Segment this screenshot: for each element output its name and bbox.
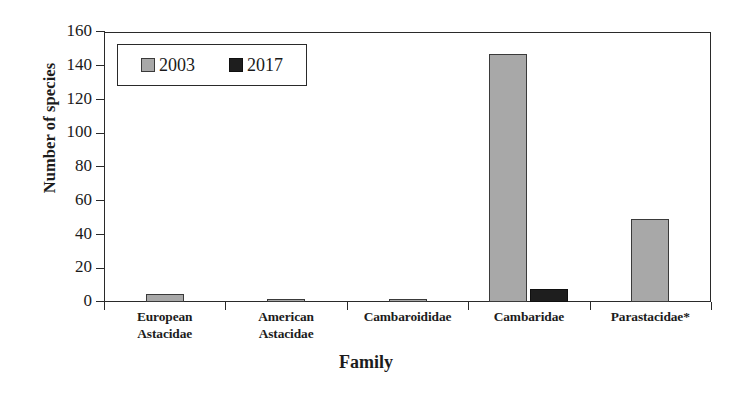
y-axis-tick-label: 120: [40, 89, 92, 109]
bar-chart-figure: Number of species 020406080100120140160 …: [0, 0, 732, 400]
chart-legend: 2003 2017: [117, 44, 307, 86]
legend-entry-2003: 2003: [141, 56, 195, 74]
legend-label-2017: 2017: [247, 56, 283, 74]
bar-2003-cambaridae: [489, 54, 527, 302]
y-axis-tick-label: 100: [40, 122, 92, 142]
bar-2003-cambaroididae: [389, 299, 427, 302]
bar-2003-americanastacidae: [267, 299, 305, 302]
category-label-line1: Parastacidae*: [611, 309, 690, 324]
category-label-line2: Astacidae: [104, 326, 225, 343]
y-axis-tick: [96, 133, 105, 134]
y-axis-tick-label: 40: [40, 224, 92, 244]
y-axis-tick-label: 140: [40, 55, 92, 75]
x-axis-tick: [711, 302, 712, 310]
y-axis-tick-label: 160: [40, 21, 92, 41]
y-axis-tick-label: 60: [40, 190, 92, 210]
y-axis-tick: [96, 166, 105, 167]
x-axis-category-label: EuropeanAstacidae: [104, 309, 225, 343]
bar-2017-cambaridae: [530, 289, 568, 303]
legend-label-2003: 2003: [159, 56, 195, 74]
legend-entry-2017: 2017: [229, 56, 283, 74]
y-axis-tick: [96, 31, 105, 32]
legend-swatch-2003-icon: [141, 58, 155, 72]
category-label-line1: European: [137, 309, 193, 324]
bar-2003-europeanastacidae: [146, 294, 184, 302]
category-label-line1: Cambaridae: [494, 309, 564, 324]
y-axis-tick-label: 80: [40, 156, 92, 176]
y-axis-tick: [96, 268, 105, 269]
y-axis-tick: [96, 65, 105, 66]
y-axis-tick-label: 0: [40, 291, 92, 311]
x-axis-category-label: Cambaroididae: [347, 309, 468, 326]
x-axis-category-label: Parastacidae*: [590, 309, 711, 326]
y-axis-tick-label: 20: [40, 257, 92, 277]
x-axis-title: Family: [0, 352, 732, 373]
category-label-line1: Cambaroididae: [364, 309, 452, 324]
legend-swatch-2017-icon: [229, 58, 243, 72]
x-axis-category-label: AmericanAstacidae: [225, 309, 346, 343]
x-axis-category-label: Cambaridae: [468, 309, 589, 326]
category-label-line2: Astacidae: [225, 326, 346, 343]
bar-2003-parastacidae: [631, 219, 669, 302]
y-axis-tick: [96, 99, 105, 100]
y-axis-tick: [96, 200, 105, 201]
category-label-line1: American: [258, 309, 314, 324]
y-axis-tick: [96, 234, 105, 235]
